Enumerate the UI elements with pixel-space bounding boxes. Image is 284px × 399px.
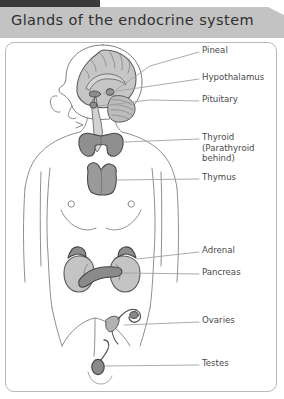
page-title: Glands of the endocrine system bbox=[11, 12, 254, 28]
label-thymus: Thymus bbox=[202, 172, 236, 183]
diagram-page: Glands of the endocrine system bbox=[0, 0, 284, 399]
label-ovaries: Ovaries bbox=[202, 315, 235, 326]
label-pituitary: Pituitary bbox=[202, 94, 238, 105]
label-pineal: Pineal bbox=[202, 45, 228, 56]
label-adrenal: Adrenal bbox=[202, 245, 235, 256]
page-edge-bar bbox=[0, 0, 100, 7]
label-pancreas: Pancreas bbox=[202, 267, 241, 278]
label-thyroid: Thyroid (Parathyroid behind) bbox=[202, 132, 255, 164]
label-testes: Testes bbox=[202, 358, 229, 369]
label-hypothalamus: Hypothalamus bbox=[202, 72, 264, 83]
